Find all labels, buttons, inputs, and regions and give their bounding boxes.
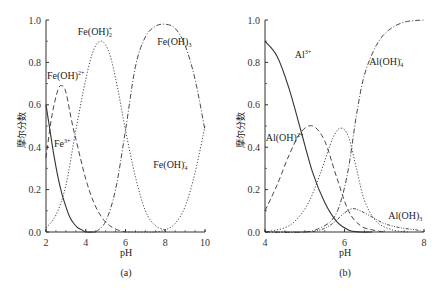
- series-annotation: Al(OH)2+: [266, 132, 304, 144]
- y-tick-label: 0.8: [29, 57, 42, 68]
- chart-panel-b: 0.00.20.40.60.81.0468Al3+Al(OH)2+Al(OH)4…: [248, 15, 427, 249]
- series-annotation: Al(OH)4-: [369, 56, 403, 68]
- y-tick-label: 0.0: [248, 227, 261, 238]
- x-axis-label-b: pH: [339, 247, 351, 258]
- series-annotation: Al(OH)3: [388, 210, 422, 222]
- chart-panel-a: 0.00.20.40.60.81.0246810Fe(OH)2+Fe(OH)3F…: [29, 15, 211, 249]
- series-line: [265, 128, 408, 232]
- series-annotation: Al3+: [295, 49, 312, 60]
- series-annotation: Fe(OH)2+: [78, 26, 113, 38]
- y-tick-label: 1.0: [29, 15, 42, 26]
- series-annotation: Fe3+: [54, 138, 71, 149]
- y-tick-label: 0.2: [248, 184, 261, 195]
- x-tick-label: 2: [44, 237, 49, 248]
- x-tick-label: 4: [83, 237, 88, 248]
- x-axis-label-a: pH: [120, 247, 132, 258]
- panel-caption-a: (a): [120, 267, 131, 279]
- series-line: [126, 126, 206, 232]
- x-tick-label: 8: [422, 237, 427, 248]
- y-tick-label: 0.2: [29, 184, 42, 195]
- chart-canvas: 0.00.20.40.60.81.0246810Fe(OH)2+Fe(OH)3F…: [0, 0, 436, 291]
- y-axis-label-b: 摩尔分数: [235, 112, 246, 148]
- x-tick-label: 8: [163, 237, 168, 248]
- panel-caption-b: (b): [339, 267, 351, 279]
- y-tick-label: 0.8: [248, 57, 261, 68]
- series-line: [46, 105, 96, 232]
- series-annotation: Fe(OH)2+: [47, 70, 85, 82]
- series-line: [96, 24, 205, 232]
- y-tick-label: 1.0: [248, 15, 261, 26]
- series-line: [265, 20, 424, 232]
- y-tick-label: 0.0: [29, 227, 42, 238]
- series-annotation: Fe(OH)3: [157, 36, 191, 48]
- series-annotation: Fe(OH)4-: [153, 159, 187, 171]
- x-tick-label: 4: [263, 237, 268, 248]
- y-tick-label: 0.6: [29, 99, 42, 110]
- y-axis-label-a: 摩尔分数: [16, 112, 27, 148]
- y-tick-label: 0.4: [29, 142, 42, 153]
- y-tick-label: 0.6: [248, 99, 261, 110]
- x-tick-label: 10: [200, 237, 210, 248]
- y-tick-label: 0.4: [248, 142, 261, 153]
